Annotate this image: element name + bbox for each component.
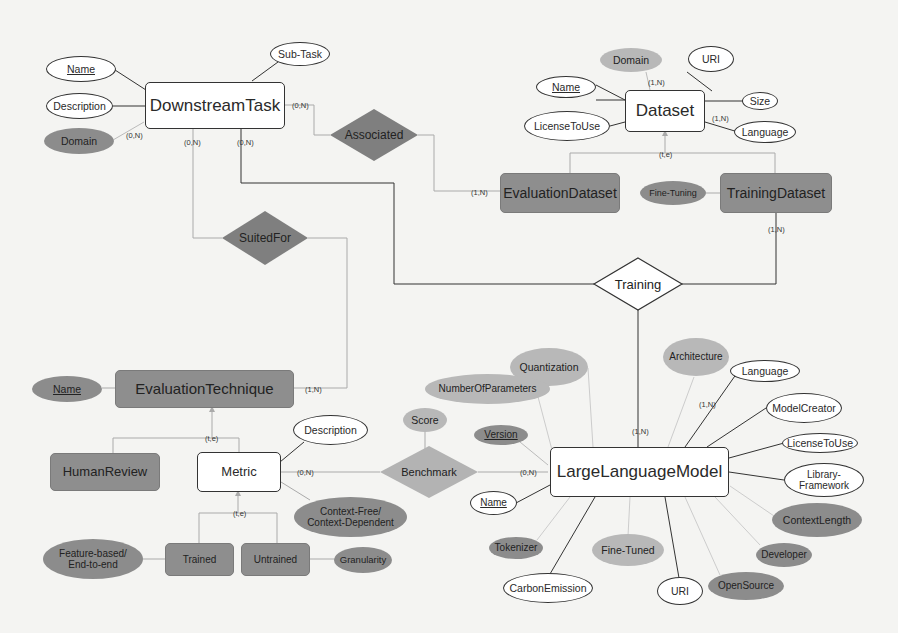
suited-for-relationship[interactable] (222, 211, 308, 265)
dataset-entity[interactable]: Dataset (625, 90, 705, 132)
cardinality-metric-specialization: (t,e) (233, 509, 246, 518)
human-review-entity[interactable]: HumanReview (50, 453, 160, 491)
task-subtask-attribute[interactable]: Sub-Task (270, 42, 330, 66)
llm-license-attribute[interactable]: LicenseToUse (782, 433, 858, 453)
task-description-attribute[interactable]: Description (46, 93, 113, 119)
cardinality-evaluation-technique-suited: (1,N) (305, 385, 322, 394)
carbon-emission-attribute[interactable]: CarbonEmission (503, 573, 593, 603)
metric-description-attribute[interactable]: Description (293, 415, 368, 445)
fine-tuning-attribute[interactable]: Fine-Tuning (640, 181, 706, 205)
llm-uri-attribute[interactable]: URI (657, 577, 703, 605)
cardinality-evaluation-dataset-associated: (1,N) (471, 188, 488, 197)
evaluation-technique-entity[interactable]: EvaluationTechnique (115, 370, 294, 408)
trained-entity[interactable]: Trained (165, 543, 234, 576)
training-relationship[interactable] (594, 258, 682, 310)
downstream-task-entity[interactable]: DownstreamTask (145, 82, 285, 129)
dataset-size-attribute[interactable]: Size (742, 92, 778, 110)
number-of-parameters-attribute[interactable]: NumberOfParameters (425, 374, 550, 404)
library-framework-attribute[interactable]: Library- Framework (784, 463, 864, 497)
context-length-attribute[interactable]: ContextLength (772, 503, 862, 537)
metric-entity[interactable]: Metric (197, 452, 281, 492)
cardinality-llm-training: (1,N) (632, 427, 649, 436)
task-name-attribute[interactable]: Name (46, 56, 116, 82)
developer-attribute[interactable]: Developer (756, 543, 812, 567)
tokenizer-attribute[interactable]: Tokenizer (489, 537, 543, 559)
er-diagram: Associated SuitedFor Training Benchmark … (0, 0, 898, 633)
dataset-language-attribute[interactable]: Language (734, 121, 796, 143)
dataset-domain-attribute[interactable]: Domain (600, 48, 662, 72)
cardinality-task-suited: (0,N) (184, 138, 201, 147)
dataset-license-attribute[interactable]: LicenseToUse (524, 111, 610, 141)
fine-tuned-attribute[interactable]: Fine-Tuned (592, 534, 664, 566)
training-dataset-entity[interactable]: TrainingDataset (720, 173, 832, 213)
associated-relationship[interactable] (330, 109, 418, 161)
feature-based-attribute[interactable]: Feature-based/ End-to-end (43, 539, 143, 579)
cardinality-task-domain: (0,N) (126, 131, 143, 140)
cardinality-dataset-language: (1,N) (712, 114, 729, 123)
llm-name-attribute[interactable]: Name (470, 491, 517, 515)
cardinality-training-dataset-training: (1,N) (768, 225, 785, 234)
cardinality-llm-language: (1,N) (699, 400, 716, 409)
cardinality-metric-benchmark: (0,N) (297, 468, 314, 477)
evaluation-dataset-entity[interactable]: EvaluationDataset (500, 173, 620, 213)
llm-language-attribute[interactable]: Language (730, 360, 800, 382)
dataset-name-attribute[interactable]: Name (536, 76, 596, 98)
cardinality-task-associated: (0,N) (292, 101, 309, 110)
cardinality-dataset-specialization: (t,e) (659, 150, 672, 159)
cardinality-task-training: (0,N) (237, 138, 254, 147)
cardinality-evaluation-technique-specialization: (t,e) (205, 434, 218, 443)
context-attribute[interactable]: Context-Free/ Context-Dependent (294, 497, 407, 537)
untrained-entity[interactable]: Untrained (241, 543, 310, 576)
architecture-attribute[interactable]: Architecture (663, 338, 729, 376)
open-source-attribute[interactable]: OpenSource (708, 572, 784, 600)
evaluation-technique-name-attribute[interactable]: Name (32, 376, 102, 402)
benchmark-relationship[interactable] (380, 446, 478, 498)
version-attribute[interactable]: Version (474, 425, 528, 445)
model-creator-attribute[interactable]: ModelCreator (766, 393, 842, 423)
granularity-attribute[interactable]: Granularity (334, 547, 392, 573)
score-attribute[interactable]: Score (403, 408, 447, 432)
cardinality-llm-benchmark: (0,N) (520, 468, 537, 477)
dataset-uri-attribute[interactable]: URI (688, 46, 734, 72)
cardinality-dataset-domain: (1,N) (648, 78, 665, 87)
large-language-model-entity[interactable]: LargeLanguageModel (550, 447, 729, 497)
task-domain-attribute[interactable]: Domain (44, 128, 114, 154)
